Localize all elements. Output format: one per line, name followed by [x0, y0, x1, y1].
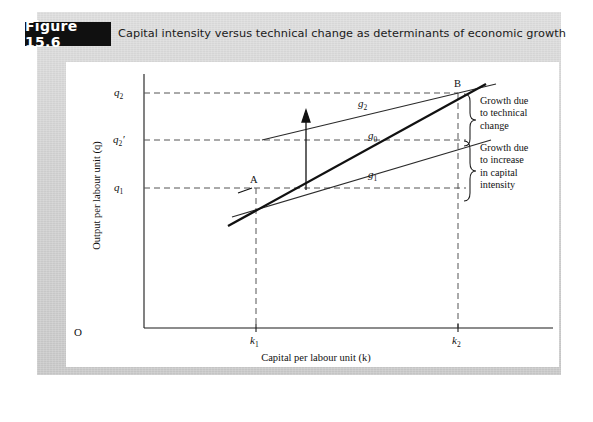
x-axis-title: Capital per labour unit (k) — [206, 352, 426, 363]
origin-label: O — [74, 326, 82, 338]
guide-lines — [144, 93, 466, 328]
point-markers — [238, 188, 252, 193]
annotation-capital-intensity: Growth due to increase in capital intens… — [480, 142, 528, 192]
chart-panel: q2 q2′ q1 k1 k2 O Output per labour unit… — [66, 62, 559, 367]
curve-label-g0: g0 — [368, 129, 377, 144]
annotation-technical-change-line-3: change — [480, 120, 528, 132]
annotation-technical-change: Growth due to technical change — [480, 95, 528, 132]
y-axis-title: Output per labour unit (q) — [91, 126, 102, 266]
figure-page: Figure 15.6 Capital intensity versus tec… — [0, 0, 593, 422]
curve-label-g2: g2 — [358, 97, 367, 112]
marker-A — [238, 188, 252, 193]
figure-number-badge: Figure 15.6 — [25, 22, 111, 46]
annotation-capital-intensity-line-4: intensity — [480, 179, 528, 191]
point-label-B: B — [454, 78, 461, 89]
curve-g0 — [228, 84, 486, 226]
annotation-capital-intensity-line-2: to increase — [480, 154, 528, 166]
figure-caption: Capital intensity versus technical chang… — [118, 24, 558, 44]
technical-change-shift-arrow — [302, 110, 310, 190]
x-tick-k2: k2 — [452, 334, 461, 349]
annotation-technical-change-line-2: to technical — [480, 107, 528, 119]
curve-label-g1: g1 — [368, 168, 377, 183]
y-tick-q1: q1 — [114, 181, 123, 196]
annotation-capital-intensity-line-1: Growth due — [480, 142, 528, 154]
y-tick-q2-prime: q2′ — [113, 133, 125, 148]
point-label-A: A — [250, 174, 258, 185]
brace-capital-intensity — [464, 141, 476, 201]
y-tick-q2: q2 — [114, 86, 123, 101]
annotation-technical-change-line-1: Growth due — [480, 95, 528, 107]
curve-g2 — [262, 84, 496, 140]
brace-technical-change — [464, 94, 476, 146]
annotation-capital-intensity-line-3: in capital — [480, 167, 528, 179]
x-tick-k1: k1 — [250, 334, 259, 349]
